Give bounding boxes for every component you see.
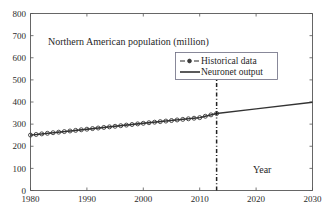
population-forecast-chart: 0100200300400500600700800 19801990200020… — [0, 0, 327, 222]
y-tick-label: 200 — [13, 141, 27, 151]
x-axis-caption: Year — [253, 164, 272, 175]
x-tick-label: 2000 — [134, 194, 153, 204]
y-tick-label: 400 — [13, 97, 27, 107]
y-tick-label: 600 — [13, 53, 27, 63]
y-tick-label: 100 — [13, 164, 27, 174]
legend-label-historical: Historical data — [201, 56, 257, 66]
chart-background — [0, 0, 327, 222]
y-tick-label: 700 — [13, 31, 27, 41]
x-tick-label: 2020 — [247, 194, 266, 204]
legend-circle-marker-icon — [188, 59, 192, 63]
y-tick-label: 500 — [13, 75, 27, 85]
y-tick-label: 800 — [13, 9, 27, 19]
legend-label-neuronet: Neuronet output — [201, 67, 263, 77]
chart-figure: 0100200300400500600700800 19801990200020… — [0, 0, 327, 222]
plot-title: Northern American population (million) — [48, 36, 209, 48]
y-axis-tick-labels: 0100200300400500600700800 — [13, 9, 27, 196]
x-tick-label: 1980 — [22, 194, 41, 204]
y-tick-label: 300 — [13, 119, 27, 129]
x-tick-label: 2030 — [304, 194, 323, 204]
legend: Historical data Neuronet output — [176, 53, 278, 80]
x-tick-label: 1990 — [78, 194, 97, 204]
x-tick-label: 2010 — [191, 194, 210, 204]
